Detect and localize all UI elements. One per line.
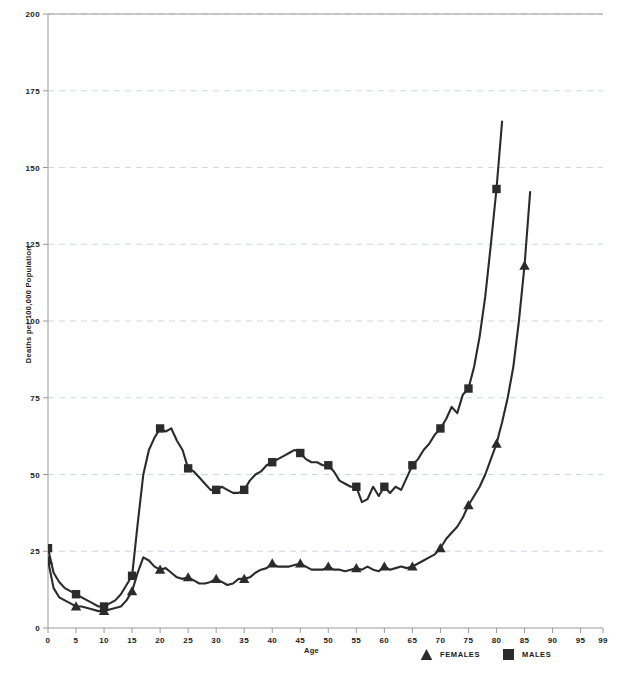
svg-text:25: 25 xyxy=(183,636,193,645)
svg-text:0: 0 xyxy=(35,624,40,633)
svg-text:85: 85 xyxy=(520,636,530,645)
y-axis-title: Deaths per 100,000 Population xyxy=(24,225,33,385)
svg-text:70: 70 xyxy=(436,636,446,645)
svg-text:55: 55 xyxy=(351,636,361,645)
svg-text:50: 50 xyxy=(30,471,40,480)
svg-text:95: 95 xyxy=(576,636,586,645)
svg-text:50: 50 xyxy=(323,636,333,645)
svg-text:99: 99 xyxy=(598,636,608,645)
legend-item-males[interactable]: MALES xyxy=(502,648,551,661)
legend-label-males: MALES xyxy=(522,650,551,659)
chart-container: 0255075100125150175200 05101520253035404… xyxy=(0,0,623,675)
svg-text:20: 20 xyxy=(155,636,165,645)
svg-text:60: 60 xyxy=(380,636,390,645)
svg-text:5: 5 xyxy=(74,636,79,645)
svg-text:75: 75 xyxy=(30,394,40,403)
square-marker-icon xyxy=(502,648,515,661)
svg-text:15: 15 xyxy=(127,636,137,645)
svg-text:65: 65 xyxy=(408,636,418,645)
svg-text:175: 175 xyxy=(25,87,40,96)
svg-text:80: 80 xyxy=(492,636,502,645)
chart-plot-area: 0255075100125150175200 05101520253035404… xyxy=(0,0,623,675)
svg-text:150: 150 xyxy=(25,164,40,173)
legend-item-females[interactable]: FEMALES xyxy=(420,648,480,661)
svg-text:30: 30 xyxy=(211,636,221,645)
svg-text:40: 40 xyxy=(267,636,277,645)
svg-text:200: 200 xyxy=(25,10,40,19)
x-axis-tick-labels: 0510152025303540455055606570758085909599 xyxy=(46,636,608,645)
svg-text:35: 35 xyxy=(239,636,249,645)
gridlines xyxy=(48,14,603,551)
svg-text:25: 25 xyxy=(30,547,40,556)
svg-text:90: 90 xyxy=(548,636,558,645)
svg-text:0: 0 xyxy=(46,636,51,645)
data-series xyxy=(43,121,530,615)
svg-text:10: 10 xyxy=(99,636,109,645)
svg-text:75: 75 xyxy=(464,636,474,645)
legend-label-females: FEMALES xyxy=(440,650,480,659)
triangle-marker-icon xyxy=(420,648,433,661)
chart-legend: FEMALES MALES xyxy=(420,648,551,661)
svg-text:45: 45 xyxy=(295,636,305,645)
x-axis-ticks xyxy=(48,628,603,633)
